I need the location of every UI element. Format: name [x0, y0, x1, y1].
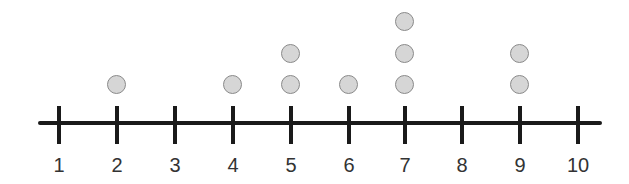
tick-label: 3	[155, 154, 195, 177]
data-dot	[395, 44, 414, 63]
tick-label: 10	[558, 154, 598, 177]
data-dot	[395, 12, 414, 31]
tick-label: 7	[385, 154, 425, 177]
data-dot	[281, 44, 300, 63]
data-dot	[223, 75, 242, 94]
data-dot	[510, 75, 529, 94]
data-dot	[395, 75, 414, 94]
axis-tick	[231, 106, 235, 144]
data-dot	[339, 75, 358, 94]
axis-tick	[173, 106, 177, 144]
dot-plot: 12345678910	[0, 0, 629, 184]
tick-label: 6	[329, 154, 369, 177]
axis-tick	[518, 106, 522, 144]
data-dot	[107, 75, 126, 94]
axis-tick	[347, 106, 351, 144]
tick-label: 2	[97, 154, 137, 177]
data-dot	[510, 44, 529, 63]
tick-label: 9	[500, 154, 540, 177]
tick-label: 5	[271, 154, 311, 177]
data-dot	[281, 75, 300, 94]
axis-tick	[460, 106, 464, 144]
tick-label: 8	[442, 154, 482, 177]
axis-tick	[57, 106, 61, 144]
axis-tick	[403, 106, 407, 144]
tick-label: 1	[39, 154, 79, 177]
axis-tick	[115, 106, 119, 144]
axis-tick	[576, 106, 580, 144]
tick-label: 4	[213, 154, 253, 177]
axis-tick	[289, 106, 293, 144]
